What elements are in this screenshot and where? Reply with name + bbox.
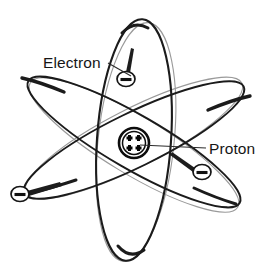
electron-top-group bbox=[117, 48, 135, 87]
nucleus-group bbox=[119, 128, 149, 158]
orbit-tip-right-upper bbox=[208, 96, 250, 110]
electron-right-tail bbox=[170, 152, 195, 172]
electron-label: Electron bbox=[43, 54, 101, 71]
nucleus-outline bbox=[119, 128, 149, 158]
atom-illustration: Electron Proton bbox=[0, 0, 270, 272]
atom-diagram-figure: Electron Proton bbox=[0, 0, 270, 272]
orbit-tip-bottom bbox=[118, 246, 144, 254]
electron-top-tail bbox=[126, 48, 134, 73]
proton-label: Proton bbox=[209, 140, 255, 157]
electron-lower-left-tail bbox=[27, 182, 62, 196]
